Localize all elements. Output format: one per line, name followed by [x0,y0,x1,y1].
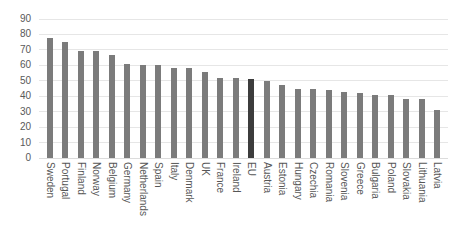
bar-slot [228,19,244,158]
bar-slot [368,19,384,158]
x-axis-tick-label: EU [246,162,256,176]
x-axis-slot: Greece [352,160,368,246]
x-axis-tick-label: Norway [91,162,101,196]
x-axis-slot: Italy [166,160,182,246]
bar-slot [42,19,58,158]
bar-germany [124,64,130,158]
bar-slot [135,19,151,158]
y-axis-tick-label: 90 [20,14,31,24]
bar-slot [73,19,89,158]
x-axis-tick-label: Austria [262,162,272,193]
x-axis-slot: Ireland [228,160,244,246]
bar-slot [321,19,337,158]
y-axis-tick-label: 30 [20,107,31,117]
x-axis-tick-label: Bulgaria [370,162,380,199]
x-axis-tick-label: Belgium [107,162,117,198]
bar-uk [202,72,208,158]
bar-slot [151,19,167,158]
bar-slot [337,19,353,158]
y-axis-tick-label: 70 [20,45,31,55]
x-axis-tick-label: UK [200,162,210,176]
y-axis-tick-label: 80 [20,29,31,39]
bar-slot [306,19,322,158]
x-axis-slot: Latvia [430,160,446,246]
y-axis-tick-label: 20 [20,122,31,132]
bar-slot [197,19,213,158]
x-axis-tick-label: Denmark [184,162,194,203]
x-axis-slot: Netherlands [135,160,151,246]
plot-area [39,19,448,158]
bar-slot [352,19,368,158]
x-axis-tick-label: Hungary [293,162,303,200]
bar-spain [155,65,161,158]
bar-norway [93,51,99,158]
x-axis-slot: Bulgaria [368,160,384,246]
bar-chart: 9080706050403020100 SwedenPortugalFinlan… [0,0,454,249]
bar-slot [58,19,74,158]
bar-slot [275,19,291,158]
x-axis-tick-label: Poland [386,162,396,193]
x-axis-slot: Estonia [275,160,291,246]
x-axis-tick-label: Italy [169,162,179,180]
x-axis-slot: Austria [259,160,275,246]
bar-slot [259,19,275,158]
y-axis: 9080706050403020100 [0,19,36,158]
bar-romania [326,90,332,158]
x-axis-slot: Lithuania [414,160,430,246]
x-axis-slot: Sweden [42,160,58,246]
bar-lithuania [419,99,425,158]
bar-ireland [233,78,239,158]
x-axis-tick-label: France [215,162,225,193]
bar-slot [414,19,430,158]
bar-sweden [47,38,53,158]
x-axis-tick-label: Spain [153,162,163,188]
bar-slot [104,19,120,158]
bar-series [39,19,448,158]
x-axis-slot: Czechia [306,160,322,246]
y-axis-tick-label: 10 [20,138,31,148]
bar-portugal [62,42,68,158]
x-axis-tick-label: Germany [122,162,132,203]
x-axis: SwedenPortugalFinlandNorwayBelgiumGerman… [39,160,448,246]
x-axis-slot: Belgium [104,160,120,246]
bar-belgium [109,55,115,158]
bar-hungary [295,89,301,159]
bar-italy [171,68,177,158]
x-axis-slot: Romania [321,160,337,246]
x-axis-slot: EU [244,160,260,246]
x-axis-slot: Norway [89,160,105,246]
x-axis-tick-label: Czechia [308,162,318,198]
bar-denmark [186,68,192,158]
x-axis-slot: Slovenia [337,160,353,246]
x-axis-slot: Hungary [290,160,306,246]
x-axis-slot: Poland [383,160,399,246]
bar-slot [89,19,105,158]
bar-netherlands [140,65,146,158]
x-axis-slot: Germany [120,160,136,246]
bar-slot [120,19,136,158]
bar-slot [383,19,399,158]
x-axis-slot: Denmark [182,160,198,246]
x-axis-slot: UK [197,160,213,246]
bar-slot [399,19,415,158]
x-axis-tick-label: Slovakia [401,162,411,200]
bar-czechia [310,89,316,159]
x-axis-slot: France [213,160,229,246]
bar-eu [248,79,254,158]
x-axis-slot: Finland [73,160,89,246]
bar-bulgaria [372,95,378,158]
bar-austria [264,81,270,158]
bar-slot [430,19,446,158]
x-axis-tick-label: Romania [324,162,334,202]
bar-slovakia [403,99,409,158]
y-axis-tick-label: 50 [20,76,31,86]
bar-slot [244,19,260,158]
y-axis-tick-label: 0 [25,153,31,163]
x-axis-slot: Spain [151,160,167,246]
x-axis-tick-label: Slovenia [339,162,349,200]
bar-latvia [434,110,440,158]
bar-finland [78,51,84,158]
x-axis-tick-label: Finland [76,162,86,195]
bar-france [217,78,223,158]
x-axis-slot: Slovakia [399,160,415,246]
